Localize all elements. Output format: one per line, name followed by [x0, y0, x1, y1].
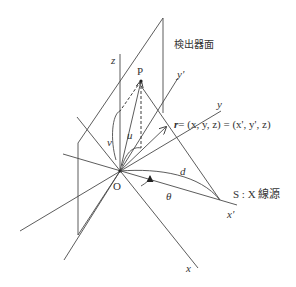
z-axis-label: z [110, 54, 116, 66]
origin-label: O [113, 180, 121, 192]
coordinate-diagram: 検出器面 z P y' y v u O d θ x' x S : X 線源 r=… [0, 0, 296, 287]
arc-v [113, 111, 120, 160]
y-axis-label: y [216, 98, 222, 110]
r-equation-text: = (x, y, z) = (x', y', z) [178, 118, 271, 131]
y-prime-axis-label: y' [176, 68, 185, 80]
x-axis [77, 117, 198, 268]
source-label: S : X 線源 [233, 187, 280, 200]
x-axis-label: x [185, 262, 191, 274]
u-label: u [127, 129, 133, 141]
detector-plane [78, 18, 163, 235]
axes [20, 54, 237, 268]
v-label: v [107, 136, 112, 148]
point-p [139, 79, 142, 82]
theta-label: θ [166, 190, 172, 202]
o-to-p-line [120, 81, 141, 171]
x-prime-axis-label: x' [226, 208, 235, 220]
y-prime-axis [120, 78, 178, 171]
point-p-label: P [137, 65, 143, 77]
detector-plane-label: 検出器面 [174, 38, 214, 50]
x-prime-axis [63, 154, 237, 205]
d-label: d [180, 165, 186, 177]
r-equation: r= (x, y, z) = (x', y', z) [174, 118, 271, 131]
